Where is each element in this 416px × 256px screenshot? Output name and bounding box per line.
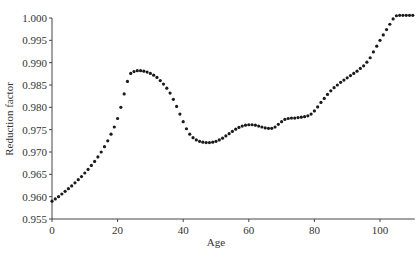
data-point [385, 28, 388, 31]
data-point [149, 72, 152, 75]
data-point [77, 178, 80, 181]
data-point [146, 70, 149, 73]
x-tick-label: 60 [243, 224, 255, 236]
data-point [362, 64, 365, 67]
data-point [310, 112, 313, 115]
data-point [103, 145, 106, 148]
data-point [106, 139, 109, 142]
data-points [50, 14, 414, 203]
data-point [401, 14, 404, 17]
y-axis: 0.9550.9600.9650.9700.9750.9800.9850.990… [22, 12, 52, 225]
data-point [90, 164, 93, 167]
data-point [221, 137, 224, 140]
y-tick-label: 0.995 [22, 34, 47, 46]
data-point [113, 125, 116, 128]
data-point [132, 70, 135, 73]
data-point [191, 136, 194, 139]
y-tick-label: 1.000 [22, 12, 47, 24]
data-point [405, 14, 408, 17]
data-point [287, 117, 290, 120]
x-axis-label: Age [207, 236, 225, 248]
data-point [244, 124, 247, 127]
data-point [336, 83, 339, 86]
x-tick-label: 20 [112, 224, 124, 236]
data-point [264, 126, 267, 129]
y-tick-label: 0.955 [22, 213, 47, 225]
data-point [93, 160, 96, 163]
data-point [388, 23, 391, 26]
data-point [123, 92, 126, 95]
x-tick-label: 80 [309, 224, 321, 236]
data-point [172, 98, 175, 101]
data-point [136, 69, 139, 72]
data-point [139, 69, 142, 72]
data-point [208, 141, 211, 144]
data-point [195, 138, 198, 141]
data-point [86, 168, 89, 171]
y-tick-label: 0.980 [22, 101, 47, 113]
data-point [234, 128, 237, 131]
y-tick-label: 0.985 [22, 79, 47, 91]
x-tick-label: 40 [178, 224, 190, 236]
data-point [80, 175, 83, 178]
data-point [349, 74, 352, 77]
data-point [73, 181, 76, 184]
data-point [218, 138, 221, 141]
data-point [60, 192, 63, 195]
y-tick-label: 0.965 [22, 168, 47, 180]
data-point [152, 74, 155, 77]
data-point [290, 116, 293, 119]
data-point [382, 33, 385, 36]
data-point [57, 195, 60, 198]
data-point [306, 114, 309, 117]
data-point [165, 87, 168, 90]
data-point [277, 123, 280, 126]
data-point [250, 123, 253, 126]
data-point [257, 124, 260, 127]
data-point [319, 101, 322, 104]
y-axis-label: Reduction factor [3, 82, 15, 156]
data-point [372, 50, 375, 53]
data-point [162, 83, 165, 86]
data-point [260, 125, 263, 128]
data-point [408, 14, 411, 17]
data-point [267, 127, 270, 130]
data-point [395, 14, 398, 17]
data-point [64, 190, 67, 193]
data-point [378, 39, 381, 42]
data-point [375, 45, 378, 48]
data-point [178, 112, 181, 115]
data-point [323, 97, 326, 100]
data-point [126, 80, 129, 83]
y-tick-label: 0.960 [22, 191, 47, 203]
data-point [100, 150, 103, 153]
data-point [280, 120, 283, 123]
data-point [159, 79, 162, 82]
data-point [211, 141, 214, 144]
data-point [411, 14, 414, 17]
data-point [205, 141, 208, 144]
data-point [168, 91, 171, 94]
data-point [316, 105, 319, 108]
data-point [326, 93, 329, 96]
data-point [67, 187, 70, 190]
data-point [241, 124, 244, 127]
data-point [175, 105, 178, 108]
data-point [119, 106, 122, 109]
data-point [109, 133, 112, 136]
x-tick-label: 100 [372, 224, 389, 236]
data-point [198, 140, 201, 143]
data-point [50, 200, 53, 203]
data-point [346, 76, 349, 79]
data-point [369, 56, 372, 59]
y-tick-label: 0.990 [22, 57, 47, 69]
data-point [342, 78, 345, 81]
data-point [313, 109, 316, 112]
y-tick-label: 0.970 [22, 146, 47, 158]
data-point [237, 126, 240, 129]
data-point [96, 155, 99, 158]
data-point [224, 134, 227, 137]
data-point [392, 17, 395, 20]
data-point [228, 132, 231, 135]
data-point [293, 116, 296, 119]
